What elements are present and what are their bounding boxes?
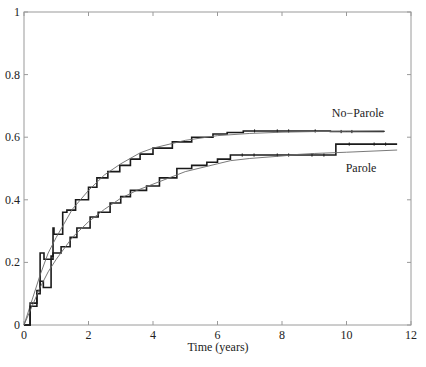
y-tick-label: 0.4	[5, 193, 20, 207]
x-tick-label: 8	[279, 328, 285, 342]
step-curve	[24, 144, 397, 325]
survival-chart: 02468101200.20.40.60.81 No−Parole Parole…	[0, 0, 426, 367]
no-parole-curve-label: No−Parole	[332, 106, 384, 120]
x-tick-label: 12	[405, 328, 417, 342]
x-tick-label: 4	[150, 328, 156, 342]
y-tick-label: 0	[14, 318, 20, 332]
data-series	[24, 129, 397, 325]
x-axis-title: Time (years)	[187, 340, 248, 354]
fitted-curve	[24, 150, 397, 325]
y-tick-label: 0.8	[5, 68, 20, 82]
y-tick-label: 0.2	[5, 255, 20, 269]
y-tick-label: 0.6	[5, 130, 20, 144]
x-tick-label: 2	[86, 328, 92, 342]
x-tick-label: 10	[341, 328, 353, 342]
parole-curve-label: Parole	[346, 161, 377, 175]
y-tick-label: 1	[14, 5, 20, 19]
x-tick-label: 0	[21, 328, 27, 342]
